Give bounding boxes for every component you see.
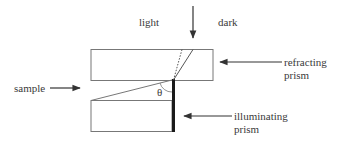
refracting-prism: [91, 50, 213, 81]
illuminating-label-line2: prism: [234, 124, 259, 135]
illuminating-prism: [91, 101, 172, 132]
sample-label: sample: [14, 83, 45, 94]
refracting-label-line1: refracting: [284, 57, 327, 68]
refractometer-diagram: light dark sample refracting prism illum…: [0, 0, 341, 142]
theta-angle-label: θ: [157, 87, 162, 98]
illuminating-face-bar: [172, 79, 175, 132]
dark-label: dark: [218, 17, 238, 28]
critical-ray-dotted: [174, 50, 183, 81]
illuminating-label-line1: illuminating: [234, 111, 288, 122]
light-label: light: [139, 17, 159, 28]
incident-ray: [174, 50, 194, 81]
refracting-label-line2: prism: [284, 70, 309, 81]
